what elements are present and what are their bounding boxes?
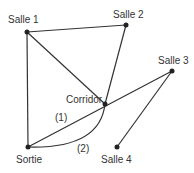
label-salle-4: Salle 4 bbox=[101, 155, 132, 165]
node-salle2 bbox=[124, 23, 129, 28]
node-corridor bbox=[103, 102, 108, 107]
node-salle1 bbox=[25, 30, 30, 35]
label-salle-3: Salle 3 bbox=[158, 56, 189, 66]
edge-salle3-salle4 bbox=[117, 71, 172, 147]
edges-layer bbox=[0, 0, 194, 173]
edge-sortie-salle3 bbox=[28, 71, 172, 147]
edge-label-1: (1) bbox=[55, 113, 67, 123]
edge-salle1-salle2 bbox=[27, 25, 126, 32]
graph-diagram: Salle 1 Salle 2 Salle 3 Corridor Sortie … bbox=[0, 0, 194, 173]
label-salle-1: Salle 1 bbox=[8, 15, 39, 25]
edge-salle1-sortie bbox=[27, 32, 28, 147]
edge-salle2-corridor bbox=[105, 25, 126, 104]
label-salle-2: Salle 2 bbox=[113, 10, 144, 20]
label-sortie: Sortie bbox=[16, 155, 42, 165]
node-salle4 bbox=[115, 145, 120, 150]
label-corridor: Corridor bbox=[66, 95, 102, 105]
edge-label-2: (2) bbox=[77, 144, 89, 154]
node-salle3 bbox=[170, 69, 175, 74]
node-sortie bbox=[26, 145, 31, 150]
